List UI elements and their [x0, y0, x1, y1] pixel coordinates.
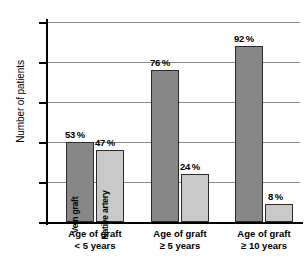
x-category-line1-group-2: Age of graft — [153, 228, 206, 239]
x-axis-line — [46, 222, 303, 224]
bar-vein-graft-group-2 — [151, 70, 179, 222]
y-tick-10 — [39, 142, 46, 144]
y-axis-line — [46, 19, 48, 225]
bar-native-artery-group-3 — [265, 204, 293, 222]
bar-vein-graft-group-3 — [235, 46, 263, 222]
x-category-line1-group-3: Age of graft — [237, 228, 290, 239]
x-category-line2-group-3: ≥ 10 years — [212, 240, 307, 252]
y-tick-15 — [39, 102, 46, 104]
y-axis-title: Number of patients — [15, 27, 26, 177]
bar-value-vein-graft-group-3: 92 % — [234, 33, 254, 44]
y-tick-25 — [39, 22, 46, 24]
bar-value-vein-graft-group-2: 76 % — [150, 57, 170, 68]
bar-value-native-artery-group-2: 24 % — [180, 161, 200, 172]
bar-value-native-artery-group-3: 8 % — [268, 191, 283, 202]
x-category-label-group-3: Age of graft ≥ 10 years — [212, 228, 307, 251]
x-category-line1-group-1: Age of graft — [68, 228, 121, 239]
bar-native-artery-group-1: Native artery — [96, 150, 124, 222]
gridline-25 — [48, 22, 300, 23]
bar-native-artery-group-2 — [181, 174, 209, 222]
bar-vein-graft-group-1: Vein graft — [66, 142, 94, 222]
bar-value-native-artery-group-1: 47 % — [95, 137, 115, 148]
y-tick-5 — [39, 182, 46, 184]
y-tick-20 — [39, 62, 46, 64]
plot-area: 25 20 15 10 5 0 Vein graft 53 % Native a… — [46, 22, 300, 222]
bar-value-vein-graft-group-1: 53 % — [65, 129, 85, 140]
bar-chart: Number of patients 25 20 15 10 5 0 Vein … — [0, 0, 307, 264]
y-tick-0 — [39, 222, 46, 224]
